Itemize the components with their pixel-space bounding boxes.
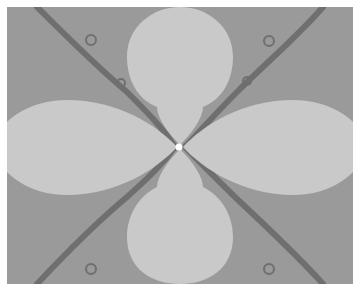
center-point <box>176 144 183 151</box>
fractal-figure <box>7 7 353 284</box>
fractal-canvas <box>7 7 353 284</box>
